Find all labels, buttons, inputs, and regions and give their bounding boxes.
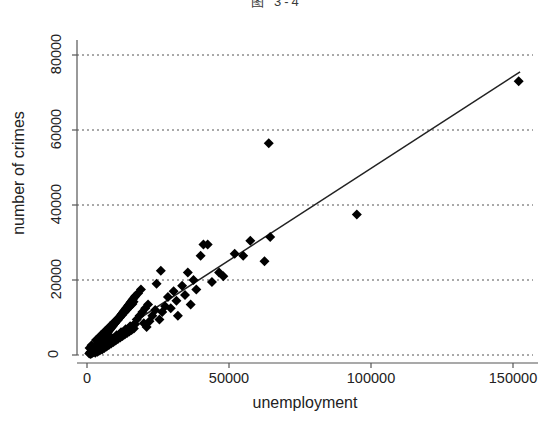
data-point (260, 256, 270, 266)
y-tick-label-20000: 20000 (36, 271, 70, 287)
x-tick-label-100000: 100000 (347, 370, 395, 386)
data-point (207, 277, 217, 287)
y-tick-label-60000: 60000 (36, 121, 70, 137)
data-point (191, 284, 201, 294)
data-point (173, 311, 183, 321)
scatter-plot-figure: 图 3-4 number of crimes unemployment 0200… (0, 0, 553, 427)
data-point (183, 268, 193, 278)
data-point (189, 275, 199, 285)
data-point (196, 251, 206, 261)
x-tick-label-50000: 50000 (209, 370, 249, 386)
y-tick-label-40000: 40000 (36, 196, 70, 212)
y-tick-label-80000: 80000 (36, 46, 70, 62)
data-point (264, 138, 274, 148)
data-point (514, 76, 524, 86)
x-tick-label-0: 0 (83, 370, 91, 386)
plot-canvas (0, 0, 553, 427)
data-points-group (84, 76, 523, 359)
data-point (156, 266, 166, 276)
data-point (265, 232, 275, 242)
data-point (238, 251, 248, 261)
data-point (352, 209, 362, 219)
y-tick-label-0: 0 (36, 346, 70, 362)
x-tick-label-150000: 150000 (489, 370, 537, 386)
data-point (186, 299, 196, 309)
data-point (230, 249, 240, 259)
